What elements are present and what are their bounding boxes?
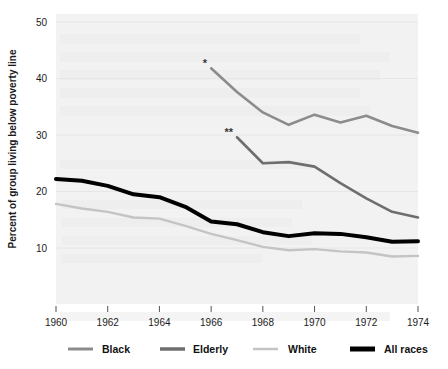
legend-label-all-races[interactable]: All races	[384, 343, 428, 355]
bleed-band	[60, 106, 370, 116]
annotation-marker-1: *	[203, 57, 208, 69]
bleed-band	[60, 34, 360, 44]
x-tick-label-1962: 1962	[97, 317, 120, 328]
legend-label-elderly[interactable]: Elderly	[193, 343, 228, 355]
x-tick-label-1972: 1972	[355, 317, 378, 328]
bleed-band	[60, 52, 390, 62]
bleed-band	[62, 254, 262, 263]
bleed-band	[60, 160, 310, 169]
y-axis: 1020304050	[36, 17, 48, 254]
x-tick-label-1966: 1966	[200, 317, 223, 328]
y-tick-label-20: 20	[36, 186, 48, 197]
y-axis-title: Percent of group living below poverty li…	[7, 49, 18, 248]
y-tick-label-40: 40	[36, 73, 48, 84]
y-tick-label-10: 10	[36, 243, 48, 254]
legend: BlackElderlyWhiteAll races	[68, 343, 428, 355]
x-tick-label-1960: 1960	[45, 317, 68, 328]
bleed-band	[60, 88, 360, 98]
y-tick-label-30: 30	[36, 130, 48, 141]
poverty-line-chart: 1020304050Percent of group living below …	[0, 0, 448, 369]
chart-canvas: 1020304050Percent of group living below …	[0, 0, 448, 369]
legend-label-white[interactable]: White	[288, 343, 317, 355]
y-tick-label-50: 50	[36, 17, 48, 28]
x-tick-label-1964: 1964	[148, 317, 171, 328]
bleed-band	[62, 236, 312, 245]
annotation-marker-2: **	[224, 126, 233, 138]
x-tick-label-1970: 1970	[303, 317, 326, 328]
x-tick-label-1974: 1974	[407, 317, 430, 328]
x-tick-label-1968: 1968	[252, 317, 275, 328]
legend-label-black[interactable]: Black	[102, 343, 130, 355]
